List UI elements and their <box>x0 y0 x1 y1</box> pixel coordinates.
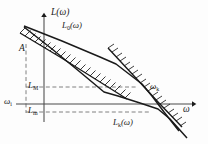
y-axis-label: L(ω) <box>51 8 69 18</box>
x-axis-label: ω <box>183 105 190 115</box>
omega-k-sub: k <box>156 86 159 92</box>
amplitude-label-A: A <box>19 44 25 54</box>
level-label-LM-sub: M <box>33 85 38 91</box>
omega-i-sub: i <box>10 101 12 107</box>
curve-label-L0-tail: (ω) <box>70 20 82 30</box>
curve-label-Lk-tail: (ω) <box>121 117 133 127</box>
level-label-Lm: Lm <box>28 106 38 116</box>
lower-hatched-boundary <box>108 44 186 127</box>
frequency-label-omega-k: ωk <box>150 82 159 92</box>
diagram-canvas <box>0 0 208 144</box>
curve-label-Lk: Lk(ω) <box>113 118 133 128</box>
curve-label-L0: L0(ω) <box>62 21 82 31</box>
level-label-Lm-sub: m <box>33 110 38 116</box>
frequency-label-omega-i: ωi <box>4 97 12 107</box>
curve-L0 <box>24 26 179 131</box>
lower-hatch-ticks <box>108 44 186 126</box>
level-label-LM: LM <box>28 81 38 91</box>
curve-Lk <box>24 27 187 138</box>
log-magnitude-diagram: L(ω) ω L0(ω) Lk(ω) A LM Lm ωi ωk <box>0 0 208 144</box>
